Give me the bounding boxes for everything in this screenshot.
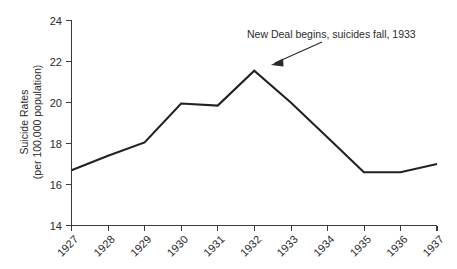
y-axis-ticks <box>66 21 72 226</box>
x-tick-label-1930: 1930 <box>164 233 190 259</box>
y-tick-label-16: 16 <box>50 179 62 191</box>
x-tick-label-1936: 1936 <box>384 233 410 259</box>
suicide-rates-line-chart: 24 22 20 18 16 14 Suicide Rates (per 100… <box>0 0 457 269</box>
x-axis-ticks <box>72 226 438 232</box>
x-tick-label-1934: 1934 <box>311 233 337 259</box>
annotation-label: New Deal begins, suicides fall, 1933 <box>247 28 416 40</box>
x-tick-label-1931: 1931 <box>201 233 227 259</box>
y-axis-title-line2: (per 100,000 population) <box>31 65 43 179</box>
x-tick-label-1927: 1927 <box>55 233 81 259</box>
x-tick-label-1928: 1928 <box>91 233 117 259</box>
x-tick-label-1935: 1935 <box>347 233 373 259</box>
x-tick-label-1932: 1932 <box>238 233 264 259</box>
arrow-head-icon <box>271 59 284 67</box>
y-tick-label-20: 20 <box>50 97 62 109</box>
x-axis-tick-labels: 1927 1928 1929 1930 1931 1932 1933 1934 … <box>55 233 446 259</box>
y-tick-label-18: 18 <box>50 138 62 150</box>
data-series-line <box>72 71 438 172</box>
y-axis-title: Suicide Rates (per 100,000 population) <box>18 65 43 179</box>
x-tick-label-1933: 1933 <box>274 233 300 259</box>
y-axis-title-line1: Suicide Rates <box>18 90 30 155</box>
y-axis-tick-labels: 24 22 20 18 16 14 <box>50 15 62 232</box>
x-tick-label-1929: 1929 <box>128 233 154 259</box>
y-tick-label-14: 14 <box>50 220 62 232</box>
chart-canvas: 24 22 20 18 16 14 Suicide Rates (per 100… <box>0 0 457 269</box>
x-tick-label-1937: 1937 <box>420 233 446 259</box>
annotation-arrow <box>271 42 322 67</box>
y-tick-label-24: 24 <box>50 15 62 27</box>
y-tick-label-22: 22 <box>50 56 62 68</box>
